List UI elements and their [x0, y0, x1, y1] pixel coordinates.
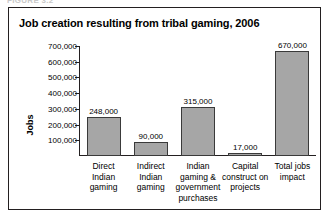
x-category-label-line: Total jobs: [269, 161, 316, 172]
plot-area: Jobs 100,000200,000300,000400,000500,000…: [9, 38, 320, 209]
bar-value-label: 315,000: [184, 97, 213, 106]
bar[interactable]: [275, 51, 309, 156]
bar-column[interactable]: 670,000: [275, 46, 309, 156]
x-category-label-line: Indian: [80, 172, 127, 183]
bar-value-label: 248,000: [89, 107, 118, 116]
x-category-label-line: Capital: [222, 161, 269, 172]
x-category-label-line: Indian: [174, 161, 221, 172]
x-category-label-line: gaming: [127, 182, 174, 193]
y-tick-label: 600,000: [48, 57, 77, 66]
y-tick-mark: [75, 46, 79, 47]
x-category-label-line: gaming: [80, 182, 127, 193]
bar-column[interactable]: 248,000: [87, 46, 121, 156]
y-tick-label: 700,000: [48, 42, 77, 51]
x-category-label: DirectIndiangaming: [80, 161, 127, 193]
y-tick-label: 300,000: [48, 104, 77, 113]
bar-value-label: 670,000: [278, 41, 307, 50]
chart-screenshot: FIGURE 3.2 Job creation resulting from t…: [0, 0, 331, 214]
x-category-label: Indiangaming &governmentpurchases: [174, 161, 221, 203]
bar-column[interactable]: 315,000: [181, 46, 215, 156]
x-category-label: IndirectIndiangaming: [127, 161, 174, 193]
y-tick-mark: [75, 140, 79, 141]
x-category-label-line: Indian: [127, 172, 174, 183]
y-tick-mark: [75, 125, 79, 126]
y-axis-tick-labels: 100,000200,000300,000400,000500,000600,0…: [33, 46, 77, 156]
y-tick-mark: [75, 93, 79, 94]
bar-value-label: 90,000: [139, 132, 163, 141]
x-category-label-line: government: [174, 182, 221, 193]
x-category-label-line: purchases: [174, 193, 221, 204]
y-tick-label: 200,000: [48, 120, 77, 129]
x-category-label-line: gaming &: [174, 172, 221, 183]
y-tick-mark: [75, 62, 79, 63]
x-axis-category-labels: DirectIndiangamingIndirectIndiangamingIn…: [80, 161, 320, 207]
y-tick-label: 400,000: [48, 89, 77, 98]
x-category-label-line: projects: [222, 182, 269, 193]
bar[interactable]: [87, 117, 121, 156]
chart-title: Job creation resulting from tribal gamin…: [19, 17, 259, 29]
figure-caption-clipped: FIGURE 3.2: [7, 0, 77, 3]
bar-column[interactable]: 90,000: [134, 46, 168, 156]
x-category-label-line: impact: [269, 172, 316, 183]
y-tick-label: 100,000: [48, 136, 77, 145]
x-category-label: Capitalconstruct onprojects: [222, 161, 269, 193]
y-tick-label: 500,000: [48, 73, 77, 82]
y-tick-mark: [75, 77, 79, 78]
bar[interactable]: [181, 107, 215, 157]
bar-value-label: 17,000: [233, 143, 257, 152]
x-category-label-line: Direct: [80, 161, 127, 172]
bar-column[interactable]: 17,000: [228, 46, 262, 156]
bar[interactable]: [228, 153, 262, 156]
x-category-label-line: Indirect: [127, 161, 174, 172]
x-category-label: Total jobsimpact: [269, 161, 316, 182]
x-category-label-line: construct on: [222, 172, 269, 183]
figure-box: Job creation resulting from tribal gamin…: [8, 7, 321, 210]
bar[interactable]: [134, 142, 168, 156]
bar-series: 248,00090,000315,00017,000670,000: [80, 46, 316, 156]
y-tick-mark: [75, 109, 79, 110]
